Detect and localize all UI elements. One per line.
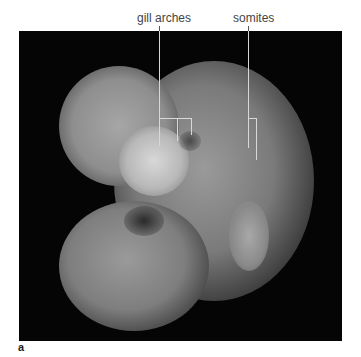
gill-arch-tick-3 xyxy=(191,118,192,135)
somites-label: somites xyxy=(233,11,274,25)
heart-bulge xyxy=(119,126,189,196)
eye-spot xyxy=(179,131,201,151)
somites-tick xyxy=(256,118,257,160)
gill-arches-pointer xyxy=(159,31,160,146)
gill-arches-label: gill arches xyxy=(137,11,191,25)
somites-pointer xyxy=(248,31,249,148)
embryo-photo xyxy=(19,31,342,341)
panel-letter: a xyxy=(18,341,24,353)
dark-cleft xyxy=(124,206,164,236)
somites-bar xyxy=(248,118,256,119)
gill-arch-tick-2 xyxy=(177,118,178,141)
gill-arches-bar xyxy=(159,118,192,119)
limb-bud xyxy=(229,201,269,271)
